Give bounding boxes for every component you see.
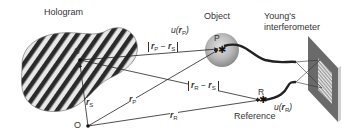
point-O-label: O	[74, 121, 81, 130]
hologram-blob	[22, 28, 138, 112]
vector-rR-minus-rS	[80, 60, 260, 100]
point-S-dot	[78, 58, 82, 62]
u-rP-label: u(rP)	[171, 26, 189, 36]
u-rR-label: u(rR)	[274, 103, 292, 113]
rR-label: rR	[170, 111, 178, 121]
rP-minus-rS-label: rP − rS	[148, 42, 178, 52]
point-O-dot	[86, 124, 90, 128]
object-label: Object	[204, 12, 230, 21]
hologram-label: Hologram	[44, 8, 83, 17]
rP-label: rP	[129, 95, 136, 105]
point-R-label: R	[258, 88, 264, 97]
interferometer-label-2: interferometer	[264, 23, 320, 32]
rR-minus-rS-label: rR − rS	[188, 81, 219, 91]
point-P-label: P	[214, 34, 220, 43]
reference-fiber	[264, 82, 296, 100]
diagram-canvas: ✱ ✱	[0, 0, 359, 136]
point-P-star: ✱	[218, 44, 226, 55]
interferometer-label-1: Young's	[264, 12, 295, 21]
screen-edge	[338, 66, 341, 122]
point-S-label: S	[74, 47, 80, 56]
reference-label: Reference	[234, 112, 276, 121]
rS-label: rS	[86, 98, 93, 108]
